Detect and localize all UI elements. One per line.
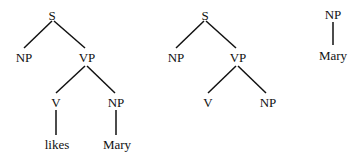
edge-vp-np [87, 66, 115, 93]
edge-s-np [176, 21, 204, 48]
edge-vp-np [238, 66, 266, 93]
node-s: S [201, 8, 208, 23]
node-v: V [203, 95, 213, 110]
node-np: NP [325, 7, 342, 22]
tree-3: NP Mary [319, 7, 348, 63]
tree-1: S NP VP V NP likes Mary [16, 8, 132, 152]
node-s: S [48, 8, 55, 23]
node-np-subject: NP [16, 50, 33, 65]
edge-s-vp [206, 21, 236, 48]
node-np-object: NP [260, 95, 277, 110]
node-np-subject: NP [168, 50, 185, 65]
edge-s-vp [54, 21, 85, 48]
syntax-trees-diagram: S NP VP V NP likes Mary S NP VP V NP NP … [0, 0, 364, 158]
node-vp: VP [230, 50, 247, 65]
leaf-mary: Mary [103, 137, 132, 152]
tree-2: S NP VP V NP [168, 8, 277, 110]
leaf-mary: Mary [319, 48, 348, 63]
node-np-object: NP [108, 95, 125, 110]
leaf-likes: likes [45, 137, 70, 152]
node-v: V [51, 95, 61, 110]
node-vp: VP [79, 50, 96, 65]
edge-vp-v [56, 66, 85, 93]
edge-vp-v [208, 66, 236, 93]
edge-s-np [24, 21, 52, 48]
